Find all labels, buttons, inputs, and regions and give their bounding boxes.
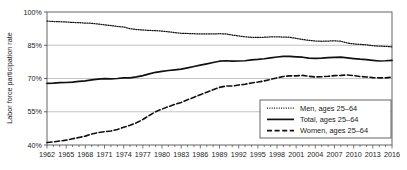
y-tick-label: 55% [28, 107, 43, 116]
x-tick-label: 1971 [97, 150, 113, 159]
y-axis-title-text: Labor force participation rate [5, 32, 14, 124]
x-tick-label: 1962 [39, 150, 55, 159]
legend-label: Total, ages 25–64 [300, 115, 358, 124]
x-tick-label: 1980 [154, 150, 170, 159]
x-tick-label: 1983 [173, 150, 189, 159]
x-axis-tick-labels: 1962196519681971197419771980198319861989… [39, 150, 400, 159]
chart-container: 1962196519681971197419771980198319861989… [0, 0, 407, 170]
labor-force-participation-line-chart: 1962196519681971197419771980198319861989… [0, 0, 407, 170]
x-tick-label: 2013 [365, 150, 381, 159]
chart-background [0, 0, 407, 170]
y-axis-title: Labor force participation rate [5, 32, 14, 124]
x-tick-label: 1974 [116, 150, 132, 159]
x-tick-label: 1968 [77, 150, 93, 159]
x-tick-label: 2010 [346, 150, 362, 159]
y-tick-label: 100% [24, 8, 43, 17]
x-tick-label: 1998 [269, 150, 285, 159]
x-tick-label: 1992 [231, 150, 247, 159]
legend-label: Women, ages 25–64 [300, 126, 368, 135]
x-tick-label: 1977 [135, 150, 151, 159]
x-tick-label: 2007 [327, 150, 343, 159]
legend-label: Men, ages 25–64 [300, 104, 357, 113]
x-tick-label: 1995 [250, 150, 266, 159]
x-tick-label: 1986 [192, 150, 208, 159]
x-tick-label: 1989 [212, 150, 228, 159]
x-tick-label: 2004 [307, 150, 323, 159]
x-tick-label: 2016 [384, 150, 400, 159]
y-tick-label: 85% [28, 41, 43, 50]
x-tick-label: 2001 [288, 150, 304, 159]
y-tick-label: 40% [28, 141, 43, 150]
chart-legend: Men, ages 25–64Total, ages 25–64Women, a… [260, 100, 391, 138]
y-tick-label: 70% [28, 74, 43, 83]
x-tick-label: 1965 [58, 150, 74, 159]
